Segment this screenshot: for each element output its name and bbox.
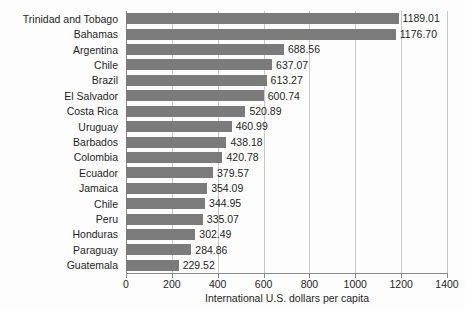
bar-row: 302.49 xyxy=(126,229,447,240)
bar xyxy=(126,13,399,24)
bar xyxy=(126,121,232,132)
x-axis-tick-label: 600 xyxy=(255,279,273,290)
bar xyxy=(126,90,264,101)
bar xyxy=(126,137,226,148)
bar-row: 438.18 xyxy=(126,137,447,148)
category-label: Argentina xyxy=(73,45,118,56)
bar-value-label: 613.27 xyxy=(271,75,303,86)
category-label: Ecuador xyxy=(79,168,118,179)
category-label: Honduras xyxy=(72,229,118,240)
bar xyxy=(126,244,191,255)
bar-chart: Trinidad and TobagoBahamasArgentinaChile… xyxy=(0,0,465,310)
x-axis-tick-label: 200 xyxy=(163,279,181,290)
bar-value-label: 637.07 xyxy=(276,60,308,71)
category-label: Peru xyxy=(96,214,118,225)
bar-row: 379.57 xyxy=(126,167,447,178)
bar xyxy=(126,59,272,70)
bar-row: 600.74 xyxy=(126,90,447,101)
bar xyxy=(126,167,213,178)
category-label: Trinidad and Tobago xyxy=(23,14,118,25)
category-label: Jamaica xyxy=(79,183,118,194)
category-label: Paraguay xyxy=(73,245,118,256)
bar-value-label: 460.99 xyxy=(236,121,268,132)
bar-value-label: 520.89 xyxy=(249,106,281,117)
bar-row: 229.52 xyxy=(126,260,447,271)
x-axis-tick-label: 400 xyxy=(209,279,227,290)
bar xyxy=(126,152,222,163)
plot-area: 1189.011176.70688.56637.07613.27600.7452… xyxy=(126,11,447,273)
x-axis-tick-label: 1400 xyxy=(435,279,458,290)
category-label: Barbados xyxy=(73,137,118,148)
bar xyxy=(126,29,396,40)
category-label: Brazil xyxy=(92,75,118,86)
bar-value-label: 344.95 xyxy=(209,198,241,209)
bar xyxy=(126,183,207,194)
bar-value-label: 302.49 xyxy=(199,229,231,240)
x-axis-tick-label: 800 xyxy=(301,279,319,290)
bar-value-label: 1176.70 xyxy=(400,29,437,40)
bar-row: 1176.70 xyxy=(126,29,447,40)
bar xyxy=(126,229,195,240)
x-axis-tick-label: 1000 xyxy=(344,279,367,290)
bar-row: 344.95 xyxy=(126,198,447,209)
bar xyxy=(126,198,205,209)
bar-value-label: 600.74 xyxy=(268,91,300,102)
bar-row: 420.78 xyxy=(126,152,447,163)
category-label: El Salvador xyxy=(64,91,118,102)
bar-row: 688.56 xyxy=(126,44,447,55)
bar-row: 637.07 xyxy=(126,59,447,70)
category-label: Guatemala xyxy=(67,260,118,271)
x-axis-title: International U.S. dollars per capita xyxy=(126,293,448,304)
bar-row: 335.07 xyxy=(126,214,447,225)
bar-value-label: 1189.01 xyxy=(403,13,440,24)
bar xyxy=(126,75,267,86)
bar-value-label: 335.07 xyxy=(207,214,239,225)
bar-value-label: 420.78 xyxy=(226,152,258,163)
x-axis-tick-label: 0 xyxy=(123,279,129,290)
bar xyxy=(126,260,179,271)
category-axis-labels: Trinidad and TobagoBahamasArgentinaChile… xyxy=(0,11,122,273)
bar-row: 1189.01 xyxy=(126,13,447,24)
category-label: Chile xyxy=(94,60,118,71)
bar xyxy=(126,214,203,225)
bar xyxy=(126,106,245,117)
bar-row: 613.27 xyxy=(126,75,447,86)
category-label: Costa Rica xyxy=(67,106,118,117)
bar-value-label: 438.18 xyxy=(230,137,262,148)
bar-value-label: 379.57 xyxy=(217,168,249,179)
category-label: Uruguay xyxy=(78,122,118,133)
bar-row: 354.09 xyxy=(126,183,447,194)
x-axis-tick-label: 1200 xyxy=(389,279,412,290)
category-label: Chile xyxy=(94,199,118,210)
bar-value-label: 354.09 xyxy=(211,183,243,194)
x-axis-line xyxy=(126,273,448,274)
bar-row: 460.99 xyxy=(126,121,447,132)
bar-value-label: 688.56 xyxy=(288,44,320,55)
bar xyxy=(126,44,284,55)
category-label: Colombia xyxy=(74,152,118,163)
bar-row: 284.86 xyxy=(126,244,447,255)
bar-row: 520.89 xyxy=(126,106,447,117)
bar-value-label: 229.52 xyxy=(183,260,215,271)
bar-value-label: 284.86 xyxy=(195,245,227,256)
gridline xyxy=(447,11,448,273)
category-label: Bahamas xyxy=(74,29,118,40)
